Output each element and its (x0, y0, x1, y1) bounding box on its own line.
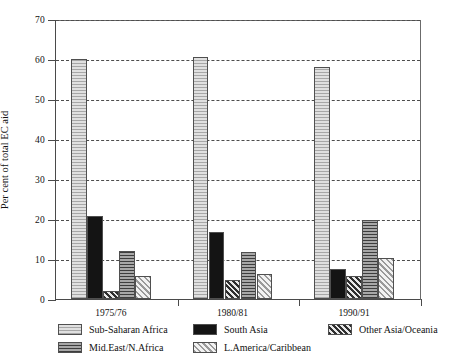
y-axis-label: 60 (35, 55, 45, 65)
legend-item: Mid.East/N.Africa (58, 342, 193, 353)
y-axis-tick (48, 60, 56, 61)
y-axis-label: 30 (35, 175, 45, 185)
chart-figure: Per cent of total EC aid 010203040506070… (0, 0, 458, 363)
y-axis-tick (48, 300, 56, 301)
y-axis-tick (48, 180, 56, 181)
legend-item: South Asia (193, 324, 328, 335)
x-axis-tick (178, 299, 179, 306)
y-axis-tick (48, 220, 56, 221)
bar (209, 232, 225, 299)
bar (241, 252, 257, 299)
bar-group (314, 20, 394, 299)
bar-group (193, 20, 273, 299)
legend-swatch (58, 324, 82, 335)
bar (362, 220, 378, 299)
plot-frame-right (420, 20, 421, 300)
bar (346, 276, 362, 299)
bar (87, 216, 103, 299)
y-axis-tick (48, 140, 56, 141)
y-axis-label: 50 (35, 95, 45, 105)
y-axis-tick (48, 100, 56, 101)
legend-label: Sub-Saharan Africa (89, 324, 168, 335)
legend-label: L.America/Caribbean (224, 342, 311, 353)
legend-item: Other Asia/Oceania (328, 324, 458, 335)
bar (330, 269, 346, 299)
legend-swatch (193, 342, 217, 353)
y-axis-label: 40 (35, 135, 45, 145)
y-axis-title: Per cent of total EC aid (0, 111, 10, 209)
x-axis-label: 1980/81 (217, 308, 248, 318)
y-axis-tick (48, 260, 56, 261)
legend-label: Other Asia/Oceania (359, 324, 438, 335)
bar (103, 291, 119, 299)
legend-swatch (58, 342, 82, 353)
bar (378, 258, 394, 299)
legend-label: Mid.East/N.Africa (89, 342, 163, 353)
x-axis-tick (299, 299, 300, 306)
bar (257, 274, 273, 299)
bar (119, 251, 135, 299)
bar (135, 276, 151, 299)
y-axis-label: 70 (35, 15, 45, 25)
legend-label: South Asia (224, 324, 268, 335)
bar (193, 57, 209, 299)
y-axis-label: 20 (35, 215, 45, 225)
y-axis-label: 0 (40, 295, 45, 305)
bar-group (71, 20, 151, 299)
plot-area: 0102030405060701975/761980/811990/91 (55, 20, 420, 300)
bar (314, 67, 330, 299)
legend-item: L.America/Caribbean (193, 342, 328, 353)
legend-item: Sub-Saharan Africa (58, 324, 193, 335)
y-axis-label: 10 (35, 255, 45, 265)
x-axis-tick (421, 299, 422, 306)
legend-swatch (193, 324, 217, 335)
bar (225, 280, 241, 299)
legend-swatch (328, 324, 352, 335)
bar (71, 59, 87, 299)
x-axis-label: 1990/91 (339, 308, 370, 318)
y-axis-tick (48, 20, 56, 21)
chart-legend: Sub-Saharan AfricaSouth AsiaOther Asia/O… (58, 320, 450, 356)
x-axis-label: 1975/76 (95, 308, 126, 318)
